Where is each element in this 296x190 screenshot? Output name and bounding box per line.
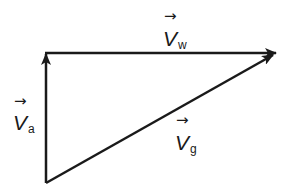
va-symbol: V xyxy=(13,111,27,134)
va-label: Va xyxy=(13,112,35,133)
vw-subscript: w xyxy=(178,38,187,52)
vw-label: Vw xyxy=(163,28,187,49)
vw-vector-arrow-icon: → xyxy=(164,9,177,24)
vector-vg-line xyxy=(46,55,273,183)
vg-label: Vg xyxy=(175,132,197,153)
vector-triangle-diagram xyxy=(0,0,296,190)
vw-symbol: V xyxy=(163,27,177,50)
va-vector-arrow-icon: → xyxy=(14,94,27,109)
va-subscript: a xyxy=(28,122,35,136)
vg-symbol: V xyxy=(175,131,189,154)
vg-subscript: g xyxy=(190,142,197,156)
vg-vector-arrow-icon: → xyxy=(176,113,189,128)
